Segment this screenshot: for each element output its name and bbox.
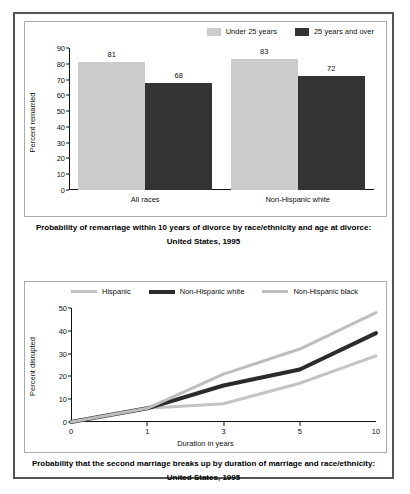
bar-y-tick-mark <box>66 142 69 143</box>
figure-frame: Under 25 years 25 years and over Percent… <box>13 12 394 479</box>
legend-label-hispanic: Hispanic <box>102 287 131 296</box>
line-x-tick-label: 0 <box>69 422 73 436</box>
bar-chart-legend: Under 25 years 25 years and over <box>25 27 386 36</box>
line-chart-legend: Hispanic Non-Hispanic white Non-Hispanic… <box>25 287 386 296</box>
bar-group: 8168All races <box>78 48 212 190</box>
bar-under-25[interactable]: 83 <box>231 59 298 190</box>
line-chart-plot-area: 01020304050 013510 <box>71 308 376 422</box>
line-x-tick-mark <box>299 422 300 426</box>
bar-y-tick-mark <box>66 48 69 49</box>
legend-line-nh-black <box>262 290 288 293</box>
bar-category-label: All races <box>78 190 212 204</box>
bar-y-tick-mark <box>66 126 69 127</box>
line-chart-series-svg <box>71 308 376 422</box>
legend-item-25-and-over: 25 years and over <box>295 27 374 36</box>
legend-label-under-25: Under 25 years <box>226 27 277 36</box>
bar-category-label: Non-Hispanic white <box>231 190 365 204</box>
legend-label-nh-black: Non-Hispanic black <box>293 287 358 296</box>
bar-value-label: 68 <box>145 71 212 80</box>
line-x-tick-mark <box>223 422 224 426</box>
top-caption-line-1: Probability of remarriage within 10 year… <box>15 222 392 234</box>
bar-y-tick-mark <box>66 174 69 175</box>
bar-y-tick-mark <box>66 111 69 112</box>
bar-chart-y-axis-label: Percent remarried <box>26 46 38 198</box>
bar-y-tick-mark <box>66 63 69 64</box>
bar-chart-plot-area: 0102030405060708090 8168All races8372Non… <box>69 48 374 190</box>
line-chart-panel: Hispanic Non-Hispanic white Non-Hispanic… <box>24 281 387 453</box>
bar-y-tick-mark <box>66 158 69 159</box>
legend-label-nh-white: Non-Hispanic white <box>180 287 245 296</box>
legend-item-under-25: Under 25 years <box>207 27 277 36</box>
legend-swatch-under-25 <box>207 28 221 36</box>
line-chart-y-axis-label: Percent disrupted <box>26 306 38 426</box>
bar-group: 8372Non-Hispanic white <box>231 48 365 190</box>
bar-value-label: 81 <box>78 50 145 59</box>
legend-swatch-25-and-over <box>295 28 309 36</box>
bar-chart-y-axis-line <box>69 48 70 190</box>
legend-item-hispanic: Hispanic <box>71 287 131 296</box>
legend-item-nh-black: Non-Hispanic black <box>262 287 358 296</box>
bar-25-and-over[interactable]: 72 <box>298 76 365 190</box>
line-chart-x-axis-label: Duration in years <box>25 439 386 448</box>
bar-y-tick-mark <box>66 190 69 191</box>
bar-y-tick-mark <box>66 95 69 96</box>
legend-item-nh-white: Non-Hispanic white <box>149 287 245 296</box>
bar-25-and-over[interactable]: 68 <box>145 83 212 190</box>
top-caption-line-2: United States, 1995 <box>15 236 392 248</box>
line-series-nh-white <box>71 333 376 422</box>
line-x-tick-mark <box>147 422 148 426</box>
bar-under-25[interactable]: 81 <box>78 62 145 190</box>
bottom-caption-line-2: United States, 1995 <box>15 472 392 484</box>
legend-line-nh-white <box>149 290 175 294</box>
line-x-tick-label: 10 <box>372 422 380 436</box>
bar-y-tick-mark <box>66 79 69 80</box>
bar-value-label: 72 <box>298 64 365 73</box>
legend-line-hispanic <box>71 290 97 293</box>
bottom-caption-line-1: Probability that the second marriage bre… <box>15 458 392 470</box>
legend-label-25-and-over: 25 years and over <box>314 27 374 36</box>
bar-value-label: 83 <box>231 47 298 56</box>
bar-chart-panel: Under 25 years 25 years and over Percent… <box>24 21 387 217</box>
line-series-nh-black <box>71 313 376 422</box>
